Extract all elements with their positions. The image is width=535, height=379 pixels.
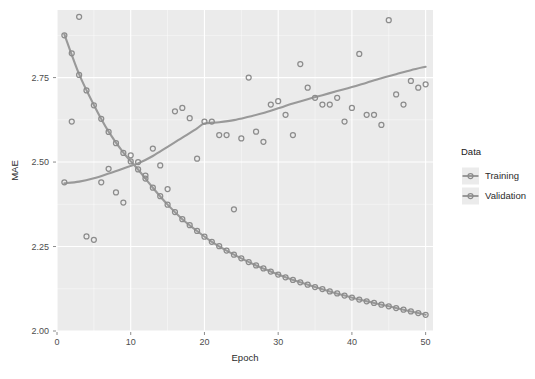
chart-container: 01020304050 2.002.252.502.75 Epoch MAE D… — [0, 0, 535, 379]
x-tick-label: 50 — [421, 337, 431, 347]
y-axis-ticks-group: 2.002.252.502.75 — [31, 73, 56, 336]
y-tick-label: 2.00 — [31, 326, 49, 336]
x-axis-title: Epoch — [232, 352, 259, 363]
x-tick-label: 0 — [54, 337, 59, 347]
legend-label-training[interactable]: Training — [485, 170, 519, 181]
x-tick-label: 30 — [273, 337, 283, 347]
plot-panel-background — [57, 10, 433, 331]
x-tick-label: 40 — [347, 337, 357, 347]
x-tick-label: 20 — [199, 337, 209, 347]
mae-vs-epoch-scatter-plot: 01020304050 2.002.252.502.75 Epoch MAE D… — [0, 0, 535, 379]
y-tick-label: 2.75 — [31, 73, 49, 83]
y-axis-title: MAE — [9, 160, 20, 181]
x-tick-label: 10 — [126, 337, 136, 347]
legend-title: Data — [461, 146, 482, 157]
legend-label-validation[interactable]: Validation — [485, 190, 526, 201]
x-axis-ticks-group: 01020304050 — [54, 332, 430, 347]
y-tick-label: 2.25 — [31, 242, 49, 252]
y-tick-label: 2.50 — [31, 157, 49, 167]
panel-background-group — [57, 10, 433, 331]
legend: Data TrainingValidation — [461, 146, 526, 205]
